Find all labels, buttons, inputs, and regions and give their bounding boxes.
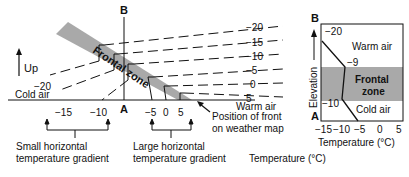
point-b-label: B — [120, 4, 128, 16]
point-a-label: A — [120, 103, 128, 115]
right-x-tick: 0 — [377, 124, 383, 135]
frontal-zone-diagram: Frontal zone B A Up −20 −15 −10 −5 0 5 W… — [0, 0, 409, 177]
large-gradient-bracket — [150, 119, 193, 138]
profile-label: −10 — [322, 98, 339, 109]
right-warm-air-label: Warm air — [352, 41, 393, 52]
isotherm-label: −5 — [246, 65, 258, 76]
front-position-label: on weather map — [212, 123, 284, 134]
right-x-tick: −15 — [315, 124, 332, 135]
small-gradient-bracket — [45, 119, 110, 138]
axis-tick: 5 — [178, 107, 184, 118]
up-label: Up — [24, 62, 38, 74]
isotherm-label: 0 — [250, 79, 256, 90]
large-gradient-label: Large horizontal — [133, 141, 205, 152]
axis-tick: 0 — [163, 107, 169, 118]
right-x-tick: −5 — [354, 124, 366, 135]
axis-tick: −15 — [55, 107, 72, 118]
isotherm-label: −10 — [246, 51, 263, 62]
up-arrowhead-icon — [16, 48, 22, 55]
temperature-label: Temperature (°C) — [249, 153, 326, 164]
profile-label: −9 — [347, 57, 359, 68]
elevation-label: Elevation — [308, 67, 319, 108]
right-frontal-zone-label: zone — [362, 86, 385, 97]
axis-tick: −10 — [90, 107, 107, 118]
frontal-zone-label: Frontal zone — [91, 44, 152, 91]
elevation-arrowhead-icon — [311, 29, 317, 37]
right-frontal-zone-label: Frontal — [355, 74, 389, 85]
right-x-tick: 5 — [396, 124, 402, 135]
right-point-b: B — [311, 12, 319, 24]
right-x-axis-label: Temperature (°C) — [318, 137, 395, 148]
large-gradient-label: temperature gradient — [133, 153, 226, 164]
profile-label: −20 — [325, 26, 342, 37]
small-gradient-label: temperature gradient — [16, 153, 109, 164]
isotherm-label: −20 — [246, 22, 263, 33]
right-point-a: A — [311, 110, 319, 122]
small-gradient-label: Small horizontal — [16, 141, 87, 152]
isotherm-label: −15 — [246, 37, 263, 48]
front-position-label: Position of front — [212, 111, 282, 122]
right-cold-air-label: Cold air — [356, 104, 391, 115]
axis-tick: −5 — [145, 107, 157, 118]
right-x-tick: −10 — [333, 124, 350, 135]
cold-air-label: Cold air — [15, 89, 50, 100]
